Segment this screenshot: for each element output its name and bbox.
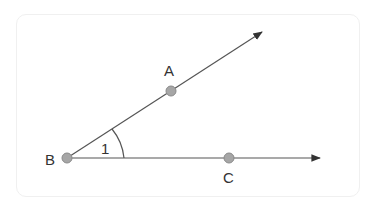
point-a <box>166 86 176 96</box>
label-c: C <box>223 169 234 186</box>
label-b: B <box>45 151 55 168</box>
point-b <box>62 153 72 163</box>
ray-ba <box>67 32 262 158</box>
angle-label: 1 <box>101 140 109 157</box>
label-a: A <box>164 62 174 79</box>
angle-diagram: A B C 1 <box>0 0 377 208</box>
point-c <box>224 153 234 163</box>
angle-arc <box>112 129 124 158</box>
